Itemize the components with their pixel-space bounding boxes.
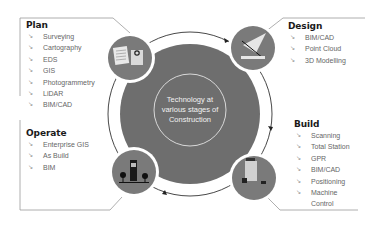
ring-arrow-top xyxy=(224,38,229,43)
arrow-down-right-icon: ↘ xyxy=(296,164,301,175)
list-item: ↘BIM/CAD xyxy=(294,164,368,175)
arrow-down-right-icon: ↘ xyxy=(28,99,33,110)
center-label-container: Technology at various stages of Construc… xyxy=(160,88,220,132)
list-item: ↘BIM/CAD xyxy=(288,32,346,43)
build-icon-circle xyxy=(229,153,279,203)
list-item: ↘BIM xyxy=(26,162,89,173)
arrow-down-right-icon: ↘ xyxy=(296,130,301,141)
stage-design: Design ↘BIM/CAD ↘Point Cloud ↘3D Modelli… xyxy=(288,21,346,66)
arrow-down-right-icon: ↘ xyxy=(28,65,33,76)
arrow-down-right-icon: ↘ xyxy=(290,55,295,66)
list-item: ↘Photogrammetry xyxy=(26,77,95,88)
arrow-down-right-icon: ↘ xyxy=(296,141,301,152)
list-item: ↘Point Cloud xyxy=(288,43,346,54)
list-item: ↘Machine Control xyxy=(294,187,351,210)
list-item: ↘EDS xyxy=(26,54,95,65)
list-item: ↘Positioning xyxy=(294,176,368,187)
arrow-down-right-icon: ↘ xyxy=(28,162,33,173)
list-item: ↘Surveying xyxy=(26,31,95,42)
list-item: ↘Total Station xyxy=(294,141,368,152)
stage-design-list: ↘BIM/CAD ↘Point Cloud ↘3D Modelling xyxy=(288,32,346,66)
arrow-down-right-icon: ↘ xyxy=(296,187,301,198)
stage-plan-heading: Plan xyxy=(26,20,95,30)
list-item: ↘LiDAR xyxy=(26,88,95,99)
stage-operate-list: ↘Enterprise GIS ↘As Build ↘BIM xyxy=(26,139,89,173)
list-item: ↘BIM/CAD xyxy=(26,99,95,110)
arrow-down-right-icon: ↘ xyxy=(28,31,33,42)
stage-operate: Operate ↘Enterprise GIS ↘As Build ↘BIM xyxy=(26,128,89,173)
stage-plan: Plan ↘Surveying ↘Cartography ↘EDS ↘GIS ↘… xyxy=(26,20,95,111)
arrow-down-right-icon: ↘ xyxy=(290,32,295,43)
list-item: ↘GPR xyxy=(294,153,368,164)
list-item: ↘GIS xyxy=(26,65,95,76)
arrow-down-right-icon: ↘ xyxy=(296,176,301,187)
list-item: ↘3D Modelling xyxy=(288,55,346,66)
list-item: ↘Enterprise GIS xyxy=(26,139,89,150)
stage-plan-list: ↘Surveying ↘Cartography ↘EDS ↘GIS ↘Photo… xyxy=(26,31,95,111)
design-icon-circle xyxy=(228,23,278,73)
arrow-down-right-icon: ↘ xyxy=(28,77,33,88)
operate-icon-circle xyxy=(109,147,159,197)
list-item: ↘Cartography xyxy=(26,42,95,53)
arrow-down-right-icon: ↘ xyxy=(28,42,33,53)
arrow-down-right-icon: ↘ xyxy=(28,150,33,161)
arrow-down-right-icon: ↘ xyxy=(296,153,301,164)
arrow-down-right-icon: ↘ xyxy=(28,139,33,150)
stage-operate-heading: Operate xyxy=(26,128,89,138)
list-item: ↘Scanning xyxy=(294,130,368,141)
arrow-down-right-icon: ↘ xyxy=(290,43,295,54)
stage-build: Build ↘Scanning ↘Total Station ↘GPR ↘BIM… xyxy=(294,119,368,210)
stage-build-heading: Build xyxy=(294,119,368,129)
stage-build-list: ↘Scanning ↘Total Station ↘GPR ↘BIM/CAD ↘… xyxy=(294,130,368,210)
stage-design-heading: Design xyxy=(288,21,346,31)
center-label: Technology at various stages of Construc… xyxy=(160,88,220,132)
plan-icon-circle xyxy=(105,33,155,83)
list-item: ↘As Build xyxy=(26,150,89,161)
arrow-down-right-icon: ↘ xyxy=(28,88,33,99)
arrow-down-right-icon: ↘ xyxy=(28,54,33,65)
